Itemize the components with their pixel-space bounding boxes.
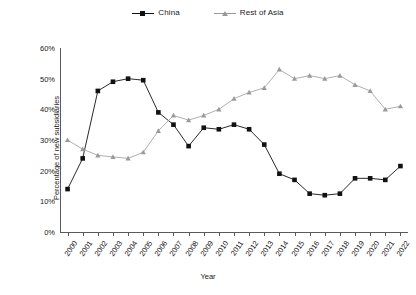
x-tick-label: 2007 <box>168 239 185 258</box>
x-tick-label: 2005 <box>138 239 155 258</box>
data-point <box>171 113 176 118</box>
data-point <box>95 153 100 158</box>
series-lines <box>60 48 408 232</box>
y-tick-label: 10% <box>40 197 55 206</box>
data-point <box>65 137 70 142</box>
x-tick-mark <box>234 232 235 236</box>
legend-item-china: China <box>132 9 179 17</box>
x-tick-label: 2018 <box>334 239 351 258</box>
data-point <box>398 164 403 169</box>
x-tick-mark <box>158 232 159 236</box>
x-tick-mark <box>219 232 220 236</box>
x-tick-mark <box>355 232 356 236</box>
data-point <box>217 127 222 132</box>
x-tick-mark <box>295 232 296 236</box>
data-point <box>338 191 343 196</box>
x-tick-label: 2004 <box>123 239 140 258</box>
legend-item-rest-of-asia: Rest of Asia <box>214 9 284 17</box>
x-tick-label: 2009 <box>198 239 215 258</box>
series-line-rest-of-asia <box>68 69 401 158</box>
data-point <box>80 156 85 161</box>
x-tick-label: 2022 <box>395 239 412 258</box>
data-point <box>216 107 221 112</box>
x-tick-label: 2012 <box>244 239 261 258</box>
x-tick-mark <box>173 232 174 236</box>
y-tick-label: 50% <box>40 74 55 83</box>
plot-area: 0%10%20%30%40%50%60% 2000200120022003200… <box>60 48 408 232</box>
x-tick-mark <box>325 232 326 236</box>
data-point <box>111 79 116 84</box>
x-tick-label: 2001 <box>77 239 94 258</box>
data-point <box>368 176 373 181</box>
data-point <box>277 67 282 72</box>
x-tick-label: 2017 <box>319 239 336 258</box>
data-point <box>337 73 342 78</box>
x-tick-mark <box>83 232 84 236</box>
data-point <box>201 113 206 118</box>
x-tick-mark <box>68 232 69 236</box>
data-point <box>383 178 388 183</box>
x-tick-label: 2013 <box>259 239 276 258</box>
x-axis-title: Year <box>0 272 416 281</box>
x-tick-label: 2011 <box>229 239 246 257</box>
x-tick-label: 2003 <box>107 239 124 258</box>
x-tick-label: 2021 <box>380 239 397 258</box>
data-point <box>141 78 146 83</box>
x-tick-mark <box>279 232 280 236</box>
data-point <box>156 110 161 115</box>
x-tick-mark <box>128 232 129 236</box>
x-tick-mark <box>143 232 144 236</box>
data-point <box>171 122 176 127</box>
x-tick-label: 2010 <box>213 239 230 258</box>
data-point <box>307 73 312 78</box>
x-tick-mark <box>340 232 341 236</box>
x-tick-label: 2019 <box>349 239 366 258</box>
data-point <box>262 142 267 147</box>
x-tick-label: 2008 <box>183 239 200 258</box>
data-point <box>353 176 358 181</box>
data-point <box>65 187 70 192</box>
data-point <box>232 122 237 127</box>
x-tick-mark <box>113 232 114 236</box>
x-tick-label: 2000 <box>62 239 79 258</box>
x-tick-mark <box>370 232 371 236</box>
x-tick-mark <box>310 232 311 236</box>
data-point <box>201 125 206 130</box>
data-point <box>277 171 282 176</box>
y-tick-label: 40% <box>40 105 55 114</box>
data-point <box>126 76 131 81</box>
x-tick-mark <box>249 232 250 236</box>
y-tick-label: 30% <box>40 136 55 145</box>
data-point <box>307 191 312 196</box>
data-point <box>292 178 297 183</box>
y-tick-label: 20% <box>40 166 55 175</box>
x-tick-mark <box>385 232 386 236</box>
x-tick-mark <box>204 232 205 236</box>
x-tick-label: 2015 <box>289 239 306 258</box>
legend-swatch-china <box>132 10 154 17</box>
x-tick-label: 2002 <box>92 239 109 258</box>
x-tick-mark <box>264 232 265 236</box>
chart-legend: China Rest of Asia <box>0 9 416 17</box>
y-tick-label: 0% <box>44 228 55 237</box>
legend-swatch-rest-of-asia <box>214 10 236 17</box>
x-tick-label: 2006 <box>153 239 170 258</box>
x-tick-mark <box>189 232 190 236</box>
y-tick-label: 60% <box>40 44 55 53</box>
data-point <box>186 144 191 149</box>
x-tick-mark <box>400 232 401 236</box>
chart-container: China Rest of Asia Percentage of new sub… <box>0 0 416 295</box>
data-point <box>96 89 101 94</box>
data-point <box>322 193 327 198</box>
x-tick-mark <box>98 232 99 236</box>
data-point <box>352 82 357 87</box>
x-tick-label: 2020 <box>365 239 382 258</box>
legend-label-rest-of-asia: Rest of Asia <box>240 9 284 17</box>
data-point <box>247 127 252 132</box>
x-tick-label: 2014 <box>274 239 291 258</box>
data-point <box>231 96 236 101</box>
legend-label-china: China <box>158 9 179 17</box>
x-tick-label: 2016 <box>304 239 321 258</box>
data-point <box>398 104 403 109</box>
data-point <box>368 88 373 93</box>
